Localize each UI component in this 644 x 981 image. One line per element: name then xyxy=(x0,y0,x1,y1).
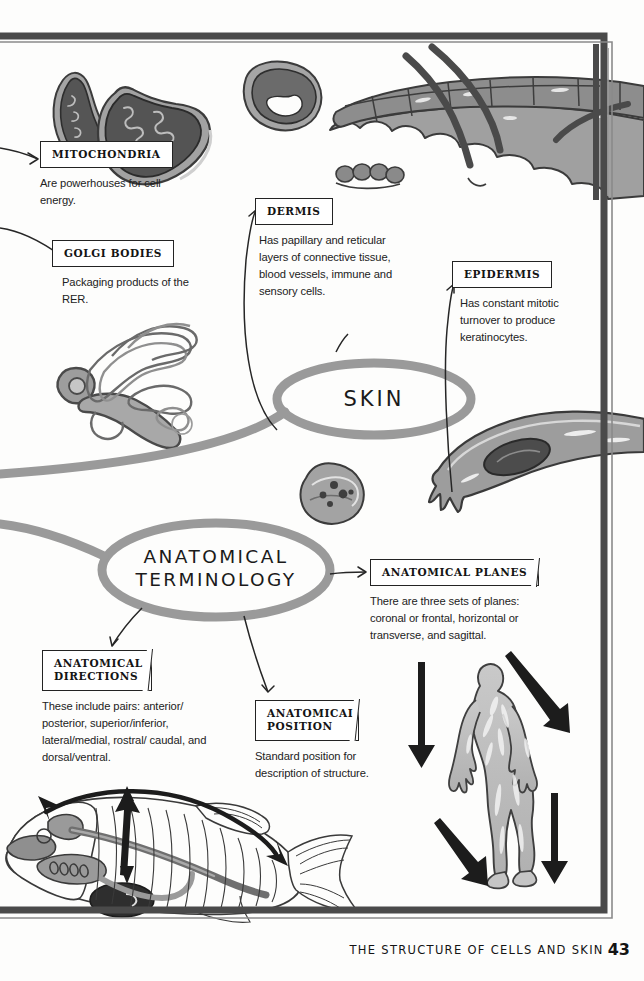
node-anatomical-planes-title: ANATOMICAL PLANES xyxy=(370,559,539,586)
elongated-cell-illustration xyxy=(429,412,644,512)
granular-cell-illustration xyxy=(301,463,364,524)
terminology-bubble-tail xyxy=(0,524,104,556)
page-footer: THE STRUCTURE OF CELLS AND SKIN43 xyxy=(350,940,630,959)
node-anatomical-position[interactable]: ANATOMICAL POSITION Standard position fo… xyxy=(255,700,405,782)
node-mitochondria-title: MITOCHONDRIA xyxy=(40,141,173,168)
human-figure-illustration xyxy=(449,664,537,888)
fish-direction-arrowheads xyxy=(38,786,288,884)
node-mitochondria[interactable]: MITOCHONDRIA Are powerhouses for cell en… xyxy=(40,141,190,209)
node-golgi-bodies-title: GOLGI BODIES xyxy=(52,240,174,267)
page-number: 43 xyxy=(608,940,630,959)
fish-anatomy-illustration xyxy=(6,797,358,922)
anatomical-terminology-bubble-label: ANATOMICAL TERMINOLOGY xyxy=(102,546,330,591)
organelle-cross-section-illustration xyxy=(244,62,322,131)
skin-bubble-tail xyxy=(0,412,285,474)
node-anatomical-planes[interactable]: ANATOMICAL PLANES There are three sets o… xyxy=(370,559,548,644)
node-anatomical-position-description: Standard position for description of str… xyxy=(255,748,405,782)
connector-bubble-to-planes xyxy=(330,572,366,574)
fish-direction-arrows xyxy=(46,791,276,854)
node-dermis[interactable]: DERMIS Has papillary and reticular layer… xyxy=(255,198,404,301)
connector-skin-to-bubble xyxy=(336,334,348,352)
node-epidermis[interactable]: EPIDERMIS Has constant mitotic turnover … xyxy=(452,261,600,346)
node-anatomical-directions-description: These include pairs: anterior/ posterior… xyxy=(42,698,218,766)
node-dermis-description: Has papillary and reticular layers of co… xyxy=(259,232,404,300)
node-golgi-bodies[interactable]: GOLGI BODIES Packaging products of the R… xyxy=(52,240,212,308)
skin-cross-section-illustration xyxy=(330,47,644,199)
skin-bubble-label: SKIN xyxy=(277,387,471,413)
node-golgi-bodies-description: Packaging products of the RER. xyxy=(62,274,212,308)
node-epidermis-description: Has constant mitotic turnover to produce… xyxy=(460,295,600,346)
node-anatomical-position-title: ANATOMICAL POSITION xyxy=(255,700,359,741)
connector-bubble-to-directions xyxy=(112,608,142,646)
node-anatomical-planes-description: There are three sets of planes: coronal … xyxy=(370,593,548,644)
node-epidermis-title: EPIDERMIS xyxy=(452,261,552,288)
plane-arrows xyxy=(408,651,570,886)
golgi-apparatus-illustration xyxy=(58,324,197,448)
node-anatomical-directions[interactable]: ANATOMICAL DIRECTIONS These include pair… xyxy=(42,650,218,766)
node-dermis-title: DERMIS xyxy=(255,198,333,225)
node-mitochondria-description: Are powerhouses for cell energy. xyxy=(40,175,190,209)
connector-to-mitochondria xyxy=(0,148,38,159)
page-canvas: MITOCHONDRIA Are powerhouses for cell en… xyxy=(0,0,644,981)
node-anatomical-directions-title: ANATOMICAL DIRECTIONS xyxy=(42,650,152,691)
connector-bubble-to-position xyxy=(244,616,268,692)
footer-chapter-title: THE STRUCTURE OF CELLS AND SKIN xyxy=(350,943,604,957)
